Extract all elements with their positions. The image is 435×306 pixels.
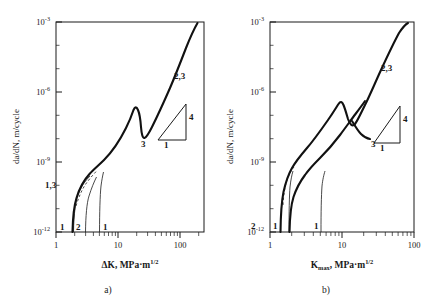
plot-b-curve-label-1-high: 1 [314,222,319,231]
plot-b-y-minor-ticks [270,45,274,208]
plot-b-curve-label-1-low: 1 [273,222,278,231]
plot-a-ytick-0: 10-3 [16,16,50,26]
plot-b-upper-curve [281,23,409,232]
plot-a-y-minor-ticks [56,45,60,208]
plot-b-curve-label-3: 3 [371,140,376,149]
plot-a-curve-label-2: 2 [76,223,81,232]
plot-a-xtick-0: 1 [46,241,66,250]
plot-b-slope-triangle [374,106,400,143]
plot-a-curve-label-2-3: 2,3 [174,72,185,81]
plot-a-xtick-2: 100 [167,241,193,250]
plot-a-curve-label-1-3: 1,3 [45,181,56,190]
panel-a: 10-3 10-6 10-9 10-12 1 10 100 ΔK, MPa·m1… [0,0,218,306]
plot-b-xtick-1: 10 [330,241,354,250]
plot-b-curve-label-2: 2 [251,222,256,231]
plot-a-y-axis-title: da/dN, m/cycle [11,109,21,164]
plot-b-ytick-0: 10-3 [230,16,264,26]
figure-fatigue-crack-growth: 10-3 10-6 10-9 10-12 1 10 100 ΔK, MPa·m1… [0,0,435,306]
plot-a-curve-label-3: 3 [141,140,146,149]
plot-a-xtick-1: 10 [106,241,130,250]
plot-b-branch-3-tail [352,121,370,139]
plot-a-slope-rise-label: 4 [189,113,194,122]
plot-a-x-axis-title: ΔK, MPa·m1/2 [60,258,200,270]
plot-a-ytick-1: 10-6 [16,86,50,96]
plot-b-ytick-3: 10-12 [227,226,264,236]
plot-a-threshold-2 [86,177,97,232]
plot-a-slope-run-label: 1 [164,141,169,150]
plot-b-curve-label-2-3: 2,3 [381,64,392,73]
plot-a-curve-label-1-high: 1 [103,223,108,232]
plot-b-x-minor-ticks [292,232,411,236]
plot-a-caption: a) [78,285,138,295]
plot-a-main-curve [73,23,198,232]
plot-b-slope-run-label: 1 [380,144,385,153]
plot-b-slope-rise-label: 4 [403,115,408,124]
plot-a-y-ticks [56,22,62,232]
plot-a-ytick-2: 10-9 [16,156,50,166]
plot-b-y-axis-title: da/dN, m/cycle [225,109,235,164]
plot-b-ytick-1: 10-6 [230,86,264,96]
panel-b: 10-3 10-6 10-9 10-12 1 10 100 Kmax, MPa·… [218,0,435,306]
plot-b-xtick-0: 1 [260,241,280,250]
plot-b-threshold-1-high [321,171,325,232]
plot-b-caption: b) [296,285,356,295]
plot-a-curve-label-1-low: 1 [60,223,65,232]
plot-b-x-axis-title: Kmax, MPa·m1/2 [270,258,414,271]
plot-a-slope-triangle [158,104,186,140]
plot-b-ytick-2: 10-9 [230,156,264,166]
plot-b-y-ticks [270,22,276,232]
plot-a-ytick-3: 10-12 [13,226,50,236]
plot-b-xtick-2: 100 [401,241,427,250]
